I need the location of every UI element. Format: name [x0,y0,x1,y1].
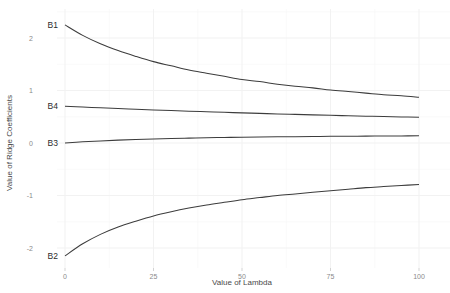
y-tick-label: 2 [29,35,33,42]
series-label-b1: B1 [48,20,59,30]
series-label-b2: B2 [48,251,59,261]
chart-background [0,0,450,293]
y-tick-label: -2 [27,245,33,252]
y-tick-label: 1 [29,87,33,94]
x-tick-label: 75 [327,273,335,280]
x-tick-label: 0 [63,273,67,280]
y-tick-label: 0 [29,140,33,147]
x-axis-title: Value of Lambda [212,278,272,287]
y-tick-label: -1 [27,192,33,199]
chart-svg: 0255075100 210-1-2 B1B4B3B2 Value of Lam… [0,0,450,293]
x-tick-label: 100 [413,273,425,280]
y-axis-title: Value of Ridge Coefficients [5,95,14,191]
ridge-coefficient-chart: 0255075100 210-1-2 B1B4B3B2 Value of Lam… [0,0,450,293]
series-label-b3: B3 [48,138,59,148]
x-tick-label: 25 [150,273,158,280]
series-label-b4: B4 [48,101,59,111]
